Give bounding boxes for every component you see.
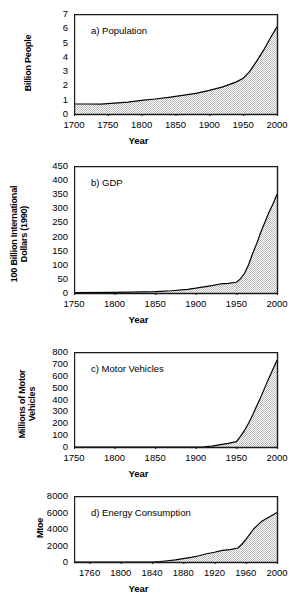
y-tick-label: 200 — [28, 232, 68, 242]
y-tick-label: 0 — [28, 109, 68, 119]
x-tick-label: 2000 — [257, 453, 297, 463]
y-tick-label: 300 — [28, 203, 68, 213]
series-fill-a — [74, 27, 277, 114]
y-tick-label: 350 — [28, 189, 68, 199]
y-tick-label: 0 — [28, 288, 68, 298]
y-tick-label: 450 — [28, 161, 68, 171]
x-tick-label: 1800 — [95, 453, 135, 463]
x-tick-label: 1750 — [54, 299, 94, 309]
panel-title-a: a) Population — [91, 25, 147, 36]
multi-panel-figure: 012345671700175018001850190019502000Year… — [0, 0, 307, 610]
y-tick-label: 50 — [28, 274, 68, 284]
y-tick-label: 6 — [28, 23, 68, 33]
y-axis-title-c: Millions of Motor Vehicles — [16, 341, 36, 466]
series-fill-d — [74, 513, 277, 563]
panel-title-b: b) GDP — [91, 177, 123, 188]
x-axis-title-b: Year — [0, 314, 277, 325]
x-tick-label: 1750 — [54, 453, 94, 463]
y-tick-label: 3 — [28, 66, 68, 76]
y-tick-label: 250 — [28, 217, 68, 227]
y-tick-label: 7 — [28, 9, 68, 19]
y-tick-label: 8000 — [28, 491, 68, 501]
x-tick-label: 1950 — [216, 299, 256, 309]
y-tick-label: 150 — [28, 246, 68, 256]
x-tick-label: 2000 — [257, 568, 297, 578]
y-tick-label: 1 — [28, 95, 68, 105]
y-tick-label: 400 — [28, 175, 68, 185]
x-tick-label: 1900 — [176, 453, 216, 463]
x-axis-title-c: Year — [0, 468, 277, 479]
x-tick-label: 2000 — [257, 299, 297, 309]
y-axis-title-d: Mtoe — [35, 480, 45, 576]
y-tick-label: 6000 — [28, 508, 68, 518]
x-tick-label: 1800 — [95, 299, 135, 309]
x-tick-label: 2000 — [257, 120, 297, 130]
y-tick-label: 5 — [28, 38, 68, 48]
y-tick-label: 4000 — [28, 524, 68, 534]
x-tick-label: 1850 — [135, 453, 175, 463]
panel-title-d: d) Energy Consumption — [91, 507, 191, 518]
x-tick-label: 1900 — [176, 299, 216, 309]
y-axis-title-a: Billion People — [23, 0, 33, 128]
panel-title-c: c) Motor Vehicles — [91, 363, 164, 374]
y-tick-label: 100 — [28, 260, 68, 270]
series-fill-b — [74, 194, 277, 293]
y-tick-label: 4 — [28, 52, 68, 62]
y-tick-label: 0 — [28, 557, 68, 567]
x-tick-label: 1950 — [216, 453, 256, 463]
x-axis-title-d: Year — [0, 583, 277, 594]
x-axis-title-a: Year — [0, 135, 277, 146]
x-tick-label: 1850 — [135, 299, 175, 309]
y-tick-label: 2 — [28, 80, 68, 90]
y-tick-label: 2000 — [28, 541, 68, 551]
y-axis-title-b: 100 Billion International Dollars (1990) — [8, 155, 28, 312]
